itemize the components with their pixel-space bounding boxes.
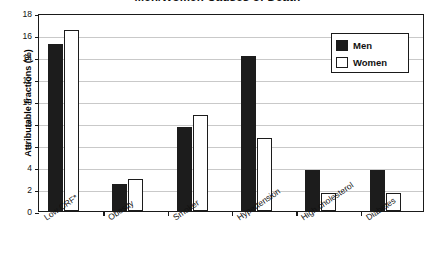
y-tick-label: 18	[2, 10, 32, 18]
y-tick-label: 16	[2, 32, 32, 40]
bar-men	[241, 56, 256, 211]
x-axis-category-labels: Low CRF*ObesitySmokerHypertensionHigh ch…	[38, 214, 424, 269]
y-tick-label: 14	[2, 54, 32, 62]
bar-group	[168, 15, 232, 211]
chart-legend: Men Women	[331, 33, 409, 73]
legend-swatch-women-icon	[336, 57, 348, 68]
legend-item-men: Men	[336, 37, 408, 54]
legend-swatch-men-icon	[336, 40, 348, 51]
bar-group	[103, 15, 167, 211]
y-tick-label: 2	[2, 186, 32, 194]
y-tick-label: 8	[2, 120, 32, 128]
bar-men	[177, 127, 192, 211]
legend-label-men: Men	[353, 40, 372, 51]
y-tick-label: 0	[2, 208, 32, 216]
legend-item-women: Women	[336, 54, 408, 71]
bar-men	[48, 44, 63, 211]
y-tick-label: 6	[2, 142, 32, 150]
bar-group	[39, 15, 103, 211]
bar-women	[64, 30, 79, 212]
chart-figure: Men/Women Causes of Death Attributable f…	[0, 0, 435, 269]
chart-title: Men/Women Causes of Death	[0, 0, 435, 5]
bar-group	[232, 15, 296, 211]
legend-label-women: Women	[353, 57, 387, 68]
y-tick-label: 4	[2, 164, 32, 172]
plot-area: Men Women	[38, 14, 424, 212]
y-tick-label: 12	[2, 76, 32, 84]
y-tick-label: 10	[2, 98, 32, 106]
